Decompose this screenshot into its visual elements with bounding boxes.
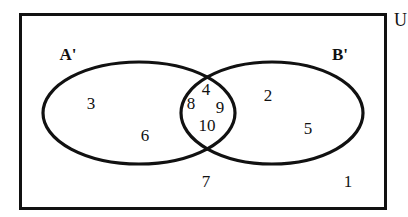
element-8: 8: [187, 94, 196, 113]
venn-diagram-canvas: A' B' U 3 6 4 8 9 10 2 5 7 1: [0, 0, 408, 217]
set-b-label: B': [332, 45, 348, 64]
venn-diagram-figure: A' B' U 3 6 4 8 9 10 2 5 7 1: [0, 0, 408, 217]
element-2: 2: [264, 86, 273, 105]
element-10: 10: [199, 116, 216, 135]
element-9: 9: [216, 98, 225, 117]
element-7: 7: [202, 172, 211, 191]
universal-set-label: U: [394, 10, 407, 30]
element-1: 1: [344, 172, 353, 191]
element-3: 3: [87, 94, 96, 113]
element-4: 4: [202, 80, 211, 99]
element-6: 6: [141, 126, 150, 145]
set-b-ellipse: [181, 62, 363, 164]
element-5: 5: [304, 119, 313, 138]
set-a-label: A': [60, 45, 77, 64]
